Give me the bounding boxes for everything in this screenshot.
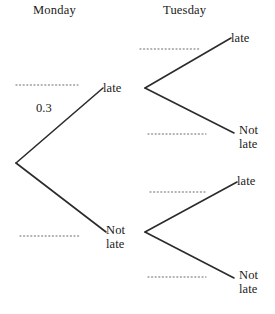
tree-branches-canvas xyxy=(0,0,275,314)
node-label-tuesday-late-not-late: Not late xyxy=(239,124,258,151)
node-label-tuesday-not-late-late: late xyxy=(237,175,255,188)
branch-not-late-to-late xyxy=(145,182,237,232)
column-header-tuesday: Tuesday xyxy=(163,4,206,17)
branch-root-to-late xyxy=(16,88,103,163)
column-header-monday: Monday xyxy=(33,4,76,17)
probability-tree-diagram: Monday Tuesday late Not late late Not la… xyxy=(0,0,275,314)
branch-probability-monday-late: 0.3 xyxy=(36,102,52,115)
branch-late-to-not-late xyxy=(145,88,234,133)
node-label-tuesday-late-late: late xyxy=(231,32,249,45)
node-label-monday-late: late xyxy=(103,82,121,95)
branch-not-late-to-not-late xyxy=(145,232,234,278)
node-label-tuesday-not-late-not-late: Not late xyxy=(239,269,258,296)
branch-late-to-late xyxy=(145,38,231,88)
branch-root-to-not-late xyxy=(16,163,106,232)
node-label-monday-not-late: Not late xyxy=(106,224,125,251)
